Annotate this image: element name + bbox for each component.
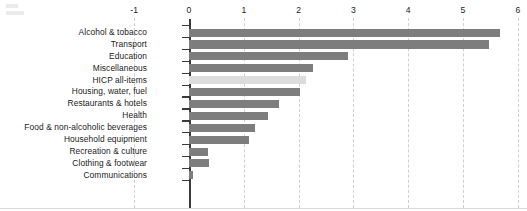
x-tick-label: 3	[351, 5, 356, 15]
category-label: Alcohol & tobacco	[0, 27, 153, 39]
category-label: Household equipment	[0, 134, 153, 146]
bar	[189, 40, 489, 48]
x-tick-label: 4	[406, 5, 411, 15]
bar	[189, 148, 208, 156]
category-label: Transport	[0, 39, 153, 51]
category-label: Health	[0, 110, 153, 122]
x-tick-label: 2	[296, 5, 301, 15]
plot-area: -10123456 Alcohol & tobaccoTransportEduc…	[0, 0, 527, 211]
bar-row	[189, 27, 527, 39]
category-label: Education	[0, 51, 153, 63]
category-label: Housing, water, fuel	[0, 86, 153, 98]
bar	[189, 29, 500, 37]
category-label: HICP all-items	[0, 75, 153, 87]
category-labels: Alcohol & tobaccoTransportEducationMisce…	[0, 27, 153, 182]
category-label: Food & non-alcoholic beverages	[0, 122, 153, 134]
x-tick-label: 0	[187, 5, 192, 15]
x-tick-label: 1	[241, 5, 246, 15]
bar-row	[189, 51, 527, 63]
bars	[189, 27, 527, 182]
bar	[189, 124, 255, 132]
bar-row	[189, 110, 527, 122]
bar-row	[189, 158, 527, 170]
bar	[189, 171, 193, 179]
bar	[189, 88, 300, 96]
bar	[189, 100, 279, 108]
bar-row	[189, 63, 527, 75]
category-label: Communications	[0, 170, 153, 182]
bar	[189, 76, 306, 84]
bar-row	[189, 39, 527, 51]
bar-row	[189, 170, 527, 182]
x-tick-label: 5	[461, 5, 466, 15]
bar-row	[189, 122, 527, 134]
bar-row	[189, 146, 527, 158]
x-tick-label: 6	[515, 5, 520, 15]
category-label: Restaurants & hotels	[0, 98, 153, 110]
bar	[189, 159, 209, 167]
bar	[189, 52, 348, 60]
bar-chart: -10123456 Alcohol & tobaccoTransportEduc…	[0, 0, 527, 211]
bar	[189, 64, 313, 72]
bar-row	[189, 98, 527, 110]
category-label: Recreation & culture	[0, 146, 153, 158]
bar-row	[189, 86, 527, 98]
bar-row	[189, 134, 527, 146]
bar	[189, 136, 249, 144]
x-tick-label: -1	[130, 5, 138, 15]
bar-row	[189, 75, 527, 87]
bottom-rule	[0, 208, 527, 209]
bar	[189, 112, 268, 120]
category-label: Miscellaneous	[0, 63, 153, 75]
category-label: Clothing & footwear	[0, 158, 153, 170]
